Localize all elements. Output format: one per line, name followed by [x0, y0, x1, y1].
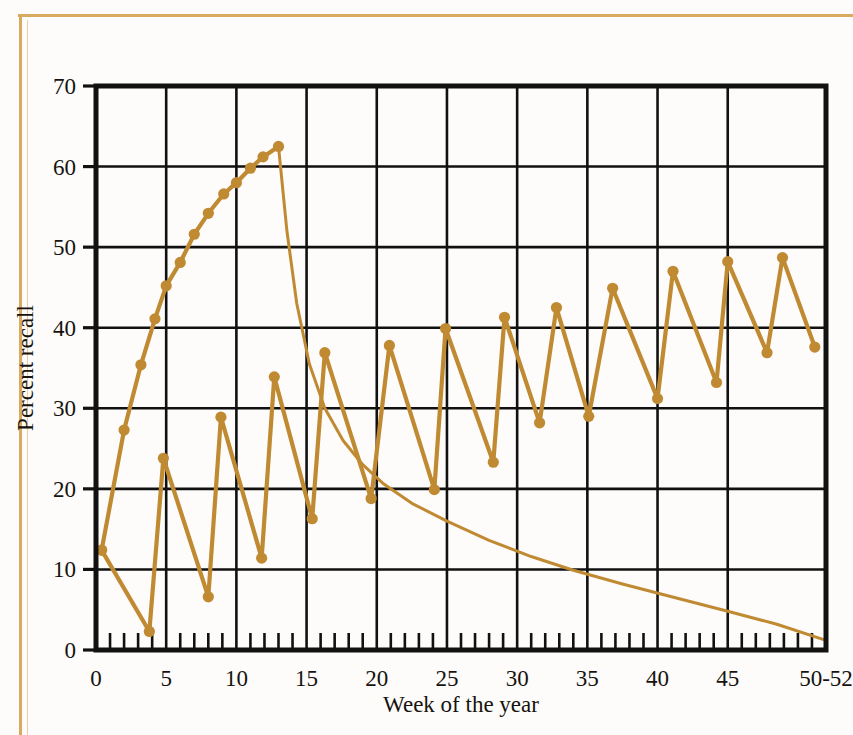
data-point-marker	[307, 513, 318, 524]
y-tick-label: 30	[53, 396, 76, 421]
x-tick-label: 0	[90, 666, 102, 691]
data-point-marker	[809, 341, 820, 352]
data-point-marker	[652, 393, 663, 404]
data-point-marker	[231, 177, 242, 188]
data-series-layer	[96, 141, 826, 641]
x-tick-label: 20	[365, 666, 388, 691]
y-tick-label: 0	[65, 638, 77, 663]
data-point-marker	[761, 347, 772, 358]
data-point-marker	[149, 313, 160, 324]
x-axis-title: Week of the year	[383, 692, 539, 717]
data-point-marker	[722, 256, 733, 267]
data-point-marker	[203, 591, 214, 602]
y-tick-label: 10	[53, 557, 76, 582]
data-point-marker	[256, 553, 267, 564]
data-point-marker	[218, 188, 229, 199]
data-point-marker	[429, 484, 440, 495]
data-point-marker	[488, 457, 499, 468]
data-point-marker	[269, 371, 280, 382]
data-point-marker	[257, 151, 268, 162]
y-tick-label: 60	[53, 155, 76, 180]
series-line-weekly-sawtooth-recall	[102, 258, 815, 632]
x-tick-label: 35	[576, 666, 599, 691]
data-point-marker	[245, 163, 256, 174]
data-point-marker	[534, 417, 545, 428]
x-tick-label: 5	[160, 666, 172, 691]
data-point-marker	[440, 323, 451, 334]
x-tick-label: 50-52	[799, 666, 853, 691]
data-point-marker	[203, 208, 214, 219]
figure-container: 05101520253035404550-52 010203040506070 …	[0, 0, 853, 735]
data-point-marker	[135, 359, 146, 370]
data-point-marker	[607, 283, 618, 294]
x-tick-label: 15	[295, 666, 318, 691]
series-line-forgetting-decay-curve	[279, 146, 827, 640]
data-point-marker	[158, 453, 169, 464]
x-tick-label: 45	[716, 666, 739, 691]
data-point-marker	[161, 280, 172, 291]
x-tick-label: 40	[646, 666, 669, 691]
y-tick-labels: 010203040506070	[53, 74, 76, 663]
data-point-marker	[144, 626, 155, 637]
x-tick-labels: 05101520253035404550-52	[90, 666, 853, 691]
data-point-marker	[551, 302, 562, 313]
data-point-marker	[175, 257, 186, 268]
y-axis-title: Percent recall	[13, 305, 38, 431]
data-point-marker	[215, 412, 226, 423]
chart-plot-area: 05101520253035404550-52 010203040506070 …	[0, 0, 853, 735]
data-point-marker	[777, 252, 788, 263]
y-tick-label: 40	[53, 316, 76, 341]
y-tick-label: 20	[53, 477, 76, 502]
chart-svg: 05101520253035404550-52 010203040506070 …	[0, 0, 853, 735]
x-tick-label: 30	[506, 666, 529, 691]
data-point-marker	[499, 312, 510, 323]
y-tick-label: 70	[53, 74, 76, 99]
data-point-marker	[366, 493, 377, 504]
data-point-marker	[583, 411, 594, 422]
x-minor-ticks	[110, 633, 812, 650]
data-point-marker	[319, 347, 330, 358]
data-point-marker	[711, 377, 722, 388]
data-point-marker	[189, 229, 200, 240]
data-point-marker	[667, 266, 678, 277]
x-tick-label: 25	[435, 666, 458, 691]
data-point-marker	[118, 424, 129, 435]
x-tick-label: 10	[225, 666, 248, 691]
y-tick-label: 50	[53, 235, 76, 260]
data-point-marker	[384, 340, 395, 351]
